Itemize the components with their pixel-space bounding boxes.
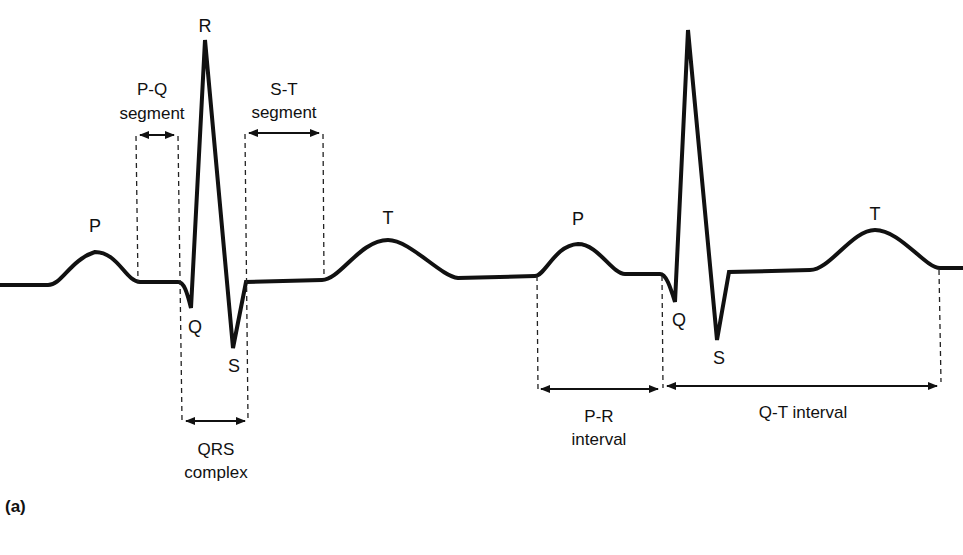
s-wave-label-2: S — [713, 348, 725, 368]
pr-end-guide — [662, 276, 663, 388]
st-segment-label-line2: segment — [251, 103, 316, 122]
q-wave-label: Q — [188, 317, 202, 337]
pq-segment-label-line1: P-Q — [137, 80, 167, 99]
pr-start-guide — [537, 276, 538, 390]
q-wave-label-2: Q — [672, 310, 686, 330]
pr-interval-label-line1: P-R — [584, 407, 613, 426]
ecg-trace — [0, 30, 963, 348]
p-wave-label-2: P — [572, 209, 584, 229]
qt-interval-label: Q-T interval — [759, 403, 848, 422]
t-wave-label-2: T — [870, 204, 881, 224]
st-end-guide — [323, 134, 324, 278]
qt-end-guide — [939, 270, 941, 382]
p-wave-label: P — [89, 216, 101, 236]
qrs-complex-label-line1: QRS — [198, 440, 235, 459]
t-wave-label: T — [383, 208, 394, 228]
ecg-diagram: P R Q S T P Q S T P-Q segment S-T segmen… — [0, 0, 963, 555]
st-segment-label-line1: S-T — [270, 80, 297, 99]
pq-segment-label-line2: segment — [119, 104, 184, 123]
panel-label: (a) — [5, 497, 26, 516]
s-wave-label: S — [228, 356, 240, 376]
pq-start-guide — [136, 136, 138, 282]
r-wave-label: R — [199, 16, 212, 36]
st-start-guide — [245, 134, 248, 420]
qrs-complex-label-line2: complex — [184, 463, 248, 482]
pq-end-guide — [178, 136, 182, 420]
pr-interval-label-line2: interval — [572, 430, 627, 449]
